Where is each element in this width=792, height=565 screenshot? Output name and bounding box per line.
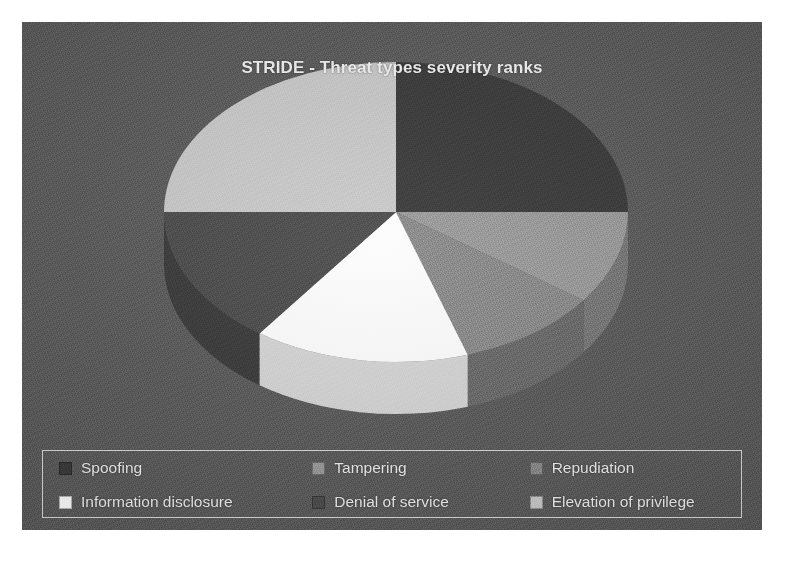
scanned-page: STRIDE - Threat types severity ranks Spo… — [0, 0, 792, 565]
legend-item[interactable]: Tampering — [308, 451, 525, 485]
pie-chart-svg: SpoofingTamperingRepudiationInformation … — [22, 22, 762, 452]
legend-item[interactable]: Elevation of privilege — [526, 485, 741, 519]
legend-row: SpoofingTamperingRepudiation — [43, 451, 741, 485]
legend-item-label: Tampering — [334, 460, 406, 476]
chart-legend: SpoofingTamperingRepudiationInformation … — [42, 450, 742, 518]
legend-swatch-icon — [530, 496, 543, 509]
pie-chart: SpoofingTamperingRepudiationInformation … — [22, 22, 762, 452]
pie-slice[interactable]: Spoofing — [396, 62, 628, 212]
legend-item-label: Elevation of privilege — [552, 494, 695, 510]
legend-swatch-icon — [312, 496, 325, 509]
legend-item[interactable]: Spoofing — [43, 451, 308, 485]
legend-swatch-icon — [59, 496, 72, 509]
legend-item[interactable]: Repudiation — [526, 451, 741, 485]
pie-top-faces: SpoofingTamperingRepudiationInformation … — [164, 62, 628, 362]
legend-swatch-icon — [530, 462, 543, 475]
legend-swatch-icon — [59, 462, 72, 475]
legend-item[interactable]: Information disclosure — [43, 485, 308, 519]
chart-title: STRIDE - Threat types severity ranks — [22, 58, 762, 78]
legend-swatch-icon — [312, 462, 325, 475]
legend-item-label: Repudiation — [552, 460, 635, 476]
legend-item[interactable]: Denial of service — [308, 485, 525, 519]
pie-slice[interactable]: Elevation of privilege — [164, 62, 396, 212]
legend-item-label: Spoofing — [81, 460, 142, 476]
legend-row: Information disclosureDenial of serviceE… — [43, 485, 741, 519]
legend-item-label: Information disclosure — [81, 494, 233, 510]
legend-item-label: Denial of service — [334, 494, 449, 510]
chart-plate: STRIDE - Threat types severity ranks Spo… — [22, 22, 762, 530]
